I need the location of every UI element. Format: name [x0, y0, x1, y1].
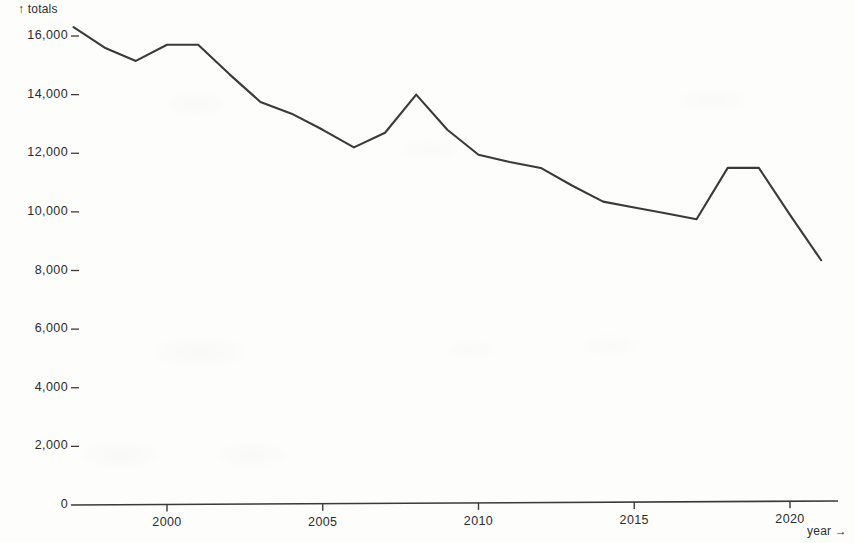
- x-axis: [71, 501, 838, 511]
- line-chart: ↑ totals 02,0004,0006,0008,00010,00012,0…: [0, 0, 855, 543]
- x-axis-tick-label: 2015: [620, 513, 649, 527]
- series-line-totals: [74, 27, 822, 260]
- y-axis-tick-marks: [71, 36, 79, 446]
- x-axis-tick-label: 2000: [152, 515, 181, 529]
- x-axis-tick-label: 2020: [775, 512, 804, 526]
- x-axis-line: [71, 501, 838, 505]
- data-line-totals: [74, 27, 822, 260]
- plot-area: [0, 0, 855, 543]
- x-axis-tick-label: 2005: [308, 515, 337, 529]
- x-axis-tick-label: 2010: [464, 514, 493, 528]
